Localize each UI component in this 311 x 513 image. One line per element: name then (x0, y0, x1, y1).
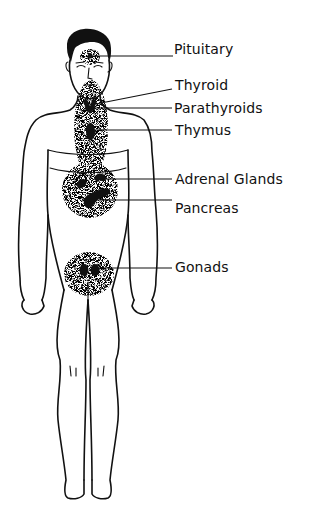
label-thyroid: Thyroid (175, 77, 228, 93)
label-parathyroids: Parathyroids (174, 100, 263, 116)
label-pituitary: Pituitary (174, 41, 233, 57)
left-leg-inner (84, 300, 88, 480)
gonad-right (91, 264, 100, 276)
legs (57, 290, 119, 499)
right-hip (112, 215, 128, 290)
leader-lines (92, 56, 173, 268)
label-thymus: Thymus (175, 122, 231, 138)
right-leg-outer (92, 290, 119, 499)
right-hand (132, 300, 154, 314)
left-arm-inner (42, 150, 48, 300)
parathyroid-left (85, 106, 89, 110)
parathyroid-right (91, 106, 95, 110)
pelvis-halo (64, 252, 114, 296)
nose (88, 68, 92, 79)
gonad-left (80, 264, 89, 276)
left-leg-outer (57, 290, 84, 499)
eyes (77, 66, 102, 68)
right-arm-inner (128, 150, 134, 300)
pituitary-gland (88, 54, 93, 59)
label-gonads: Gonads (175, 259, 229, 275)
left-hand (22, 300, 44, 314)
leader-thyroid (96, 89, 172, 104)
left-hip (48, 215, 64, 290)
endocrine-body-diagram (0, 0, 311, 513)
right-leg-inner (88, 300, 92, 480)
label-adrenal-glands: Adrenal Glands (175, 171, 283, 187)
knee-marks (70, 366, 104, 376)
label-pancreas: Pancreas (175, 200, 239, 216)
